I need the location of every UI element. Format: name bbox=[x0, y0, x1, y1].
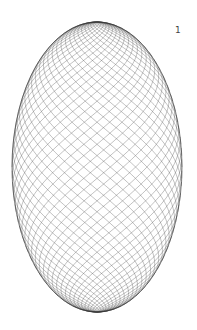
figure-label: 1 bbox=[175, 25, 181, 35]
ellipsoid-wireframe bbox=[0, 0, 197, 330]
